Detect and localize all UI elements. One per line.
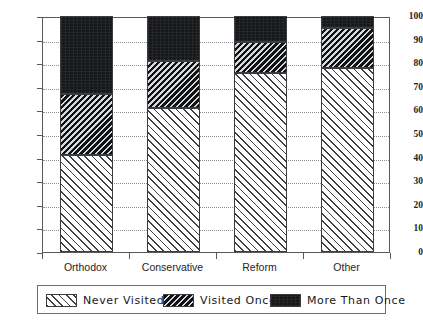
bar-reform (234, 16, 287, 252)
y-tick-label: 80 (389, 59, 423, 69)
y-tick-label: 90 (389, 36, 423, 46)
hatch-dark-swatch (163, 294, 194, 307)
legend-item-more-than-once[interactable]: More Than Once (270, 292, 406, 309)
y-tick-label: 20 (389, 201, 423, 211)
legend-label: Visited Once (200, 294, 276, 307)
legend: Never VisitedVisited OnceMore Than Once (37, 285, 386, 314)
y-tick-label: 10 (389, 225, 423, 235)
solid-black-swatch (270, 294, 301, 307)
x-tick-mark (216, 253, 217, 259)
legend-label: More Than Once (307, 294, 406, 307)
x-tick-label: Other (333, 261, 359, 273)
x-tick-label: Reform (242, 261, 276, 273)
bar-segment-never-visited (147, 108, 200, 252)
x-tick-label: Orthodox (64, 261, 107, 273)
bar-segment-visited-once (234, 42, 287, 73)
legend-label: Never Visited (83, 294, 164, 307)
x-tick-mark (390, 253, 391, 259)
bar-segment-never-visited (321, 68, 374, 252)
y-tick-label: 70 (389, 83, 423, 93)
y-tick-label: 40 (389, 154, 423, 164)
y-tick-label: 0 (389, 248, 423, 258)
bar-segment-more-than-once (321, 16, 374, 28)
y-tick-label: 60 (389, 107, 423, 117)
bar-segment-more-than-once (234, 16, 287, 42)
bar-conservative (147, 16, 200, 252)
y-tick-label: 50 (389, 130, 423, 140)
stacked-bar-chart: 1009080706050403020100 OrthodoxConservat… (0, 0, 423, 324)
x-tick-mark (129, 253, 130, 259)
bar-segment-visited-once (147, 61, 200, 108)
hatch-light-swatch (46, 294, 77, 307)
bar-segment-visited-once (60, 94, 113, 155)
x-tick-label: Conservative (142, 261, 203, 273)
bar-segment-more-than-once (147, 16, 200, 61)
x-tick-mark (42, 253, 43, 259)
bar-segment-never-visited (60, 155, 113, 252)
y-tick-label: 30 (389, 177, 423, 187)
legend-item-never-visited[interactable]: Never Visited (46, 292, 164, 309)
plot-area (42, 17, 390, 253)
bar-segment-visited-once (321, 28, 374, 68)
bar-orthodox (60, 16, 113, 252)
bar-other (321, 16, 374, 252)
x-tick-mark (303, 253, 304, 259)
bar-segment-more-than-once (60, 16, 113, 94)
y-tick-label: 100 (389, 12, 423, 22)
bar-segment-never-visited (234, 73, 287, 252)
legend-item-visited-once[interactable]: Visited Once (163, 292, 276, 309)
